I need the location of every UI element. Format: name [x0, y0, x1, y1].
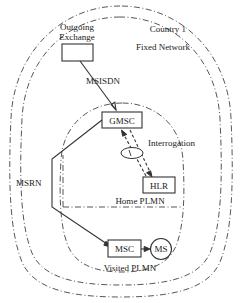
node-outgoing-exchange-label-line1: Outgoing [60, 22, 95, 32]
node-outgoing-exchange[interactable] [62, 44, 93, 61]
edge-msc-ms-arrowhead [144, 246, 150, 251]
network-diagram: Outgoing Exchange MSISDN GMSC Interrogat… [0, 0, 243, 303]
node-hlr-label: HLR [150, 181, 168, 191]
region-label-visited-plmn: Visited PLMN [104, 263, 157, 273]
edge-msrn-label: MSRN [16, 178, 42, 188]
node-msc-label: MSC [115, 244, 134, 254]
node-ms-label: MS [154, 244, 167, 254]
node-outgoing-exchange-label-line2: Exchange [59, 32, 94, 42]
edge-interrogation-up-arrowhead [122, 130, 127, 136]
region-label-home-plmn: Home PLMN [115, 196, 165, 206]
edge-interrogation-down-arrowhead [147, 171, 152, 177]
edge-msisdn-label: MSISDN [86, 76, 121, 86]
edge-msrn-line [52, 120, 110, 246]
region-label-fixed-network: Fixed Network [136, 42, 191, 52]
diagram-canvas: Outgoing Exchange MSISDN GMSC Interrogat… [0, 0, 243, 303]
edge-interrogation-label: Interrogation [148, 138, 195, 148]
interrogation-ellipse-marker [121, 148, 143, 159]
node-gmsc-label: GMSC [109, 116, 135, 126]
region-label-country-1: Country 1 [150, 24, 186, 34]
